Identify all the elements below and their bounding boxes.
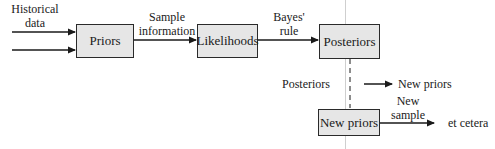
posteriors-box-label: Posteriors [324, 34, 376, 50]
new-priors-box: New priors [318, 109, 380, 136]
historical-label-line2: data [6, 16, 64, 30]
new-sample-line2: sample [384, 108, 432, 122]
sample-label-line1: Sample [136, 10, 198, 24]
bayes-rule-label: Bayes' rule [264, 10, 314, 38]
new-priors-text: New priors [398, 77, 452, 91]
bayesian-updating-diagram: Historical data Sample information Bayes… [0, 0, 495, 149]
connector-arrows [0, 0, 495, 149]
posteriors-box: Posteriors [319, 24, 380, 59]
posteriors-text: Posteriors [282, 77, 330, 91]
sample-information-label: Sample information [136, 10, 198, 38]
likelihoods-box: Likelihoods [197, 24, 258, 58]
priors-box-label: Priors [89, 33, 120, 49]
new-priors-box-label: New priors [320, 115, 378, 131]
likelihoods-box-label: Likelihoods [196, 33, 258, 49]
priors-box: Priors [76, 24, 134, 58]
new-sample-line1: New [384, 94, 432, 108]
historical-label-line1: Historical [6, 2, 64, 16]
historical-data-label: Historical data [6, 2, 64, 30]
et-cetera-text: et cetera [448, 116, 488, 130]
sample-label-line2: information [136, 24, 198, 38]
bayes-label-line2: rule [264, 24, 314, 38]
new-sample-label: New sample [384, 94, 432, 122]
bayes-label-line1: Bayes' [264, 10, 314, 24]
